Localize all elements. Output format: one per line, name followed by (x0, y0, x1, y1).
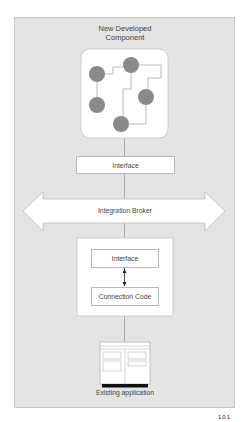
top-interface-label: Interface (112, 162, 138, 169)
integration-broker-label: Integration Broker (60, 207, 190, 214)
node-circle (123, 57, 139, 73)
top-interface-box: Interface (76, 156, 175, 174)
component-title-line1: New Developed (74, 24, 176, 33)
component-title-line2: Component (74, 33, 176, 42)
node-circle (89, 66, 105, 82)
node-circle (113, 116, 129, 132)
inner-interface-box: Interface (91, 249, 159, 268)
component-title: New Developed Component (74, 24, 176, 42)
connection-code-box: Connection Code (91, 287, 159, 306)
inner-interface-label: Interface (112, 255, 138, 262)
page-number-fragment: 101 (218, 414, 231, 420)
connection-code-label: Connection Code (99, 293, 152, 300)
node-circle (89, 97, 105, 113)
existing-application-icon (100, 342, 150, 388)
node-circle (138, 89, 154, 105)
existing-application-label: Existing application (75, 389, 175, 396)
